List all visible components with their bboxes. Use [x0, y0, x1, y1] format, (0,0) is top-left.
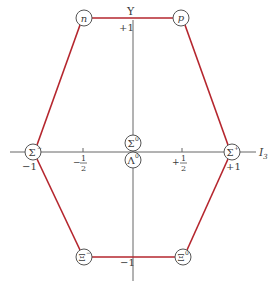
particle-xi-minus: Ξ −: [76, 249, 92, 265]
svg-text:0: 0: [185, 249, 189, 256]
i3-tick-neg-half-label: − 1 2: [73, 154, 87, 173]
particle-sigma-plus: Σ +: [224, 144, 240, 160]
svg-text:−: −: [73, 157, 81, 167]
particle-p: p: [173, 10, 189, 26]
svg-text:1: 1: [81, 154, 86, 163]
svg-text:2: 2: [181, 164, 186, 173]
svg-text:+: +: [234, 144, 239, 151]
i3-tick-minus-one: −1: [22, 161, 37, 172]
i3-tick-plus-one: +1: [226, 161, 241, 172]
svg-text:p: p: [178, 12, 185, 23]
svg-text:Σ: Σ: [28, 147, 35, 158]
svg-text:Ξ: Ξ: [78, 252, 85, 263]
svg-text:−: −: [86, 249, 91, 256]
y-axis-label: Y: [126, 5, 135, 18]
svg-text:Σ: Σ: [127, 138, 134, 149]
y-tick-minus-one: −1: [120, 257, 135, 268]
particle-lambda-zero: Λ 0: [125, 152, 141, 168]
particle-sigma-zero: Σ 0: [125, 135, 141, 151]
i3-tick-pos-half-label: + 1 2: [172, 154, 187, 173]
svg-text:0: 0: [135, 135, 139, 142]
svg-text:2: 2: [81, 164, 86, 173]
svg-text:n: n: [81, 13, 87, 24]
svg-text:0: 0: [135, 152, 139, 159]
svg-text:+: +: [172, 157, 180, 167]
i3-axis-label: I3: [258, 146, 268, 161]
svg-text:1: 1: [181, 154, 186, 163]
weight-diagram: Y I3 +1 −1 −1 +1 − 1 2 + 1 2 n p Σ − Σ +…: [0, 0, 275, 288]
particle-n: n: [76, 10, 92, 26]
particle-xi-zero: Ξ 0: [175, 249, 191, 265]
particle-sigma-minus: Σ −: [25, 144, 42, 160]
svg-text:Ξ: Ξ: [177, 252, 184, 263]
svg-text:Σ: Σ: [226, 147, 233, 158]
svg-text:−: −: [37, 144, 42, 151]
y-tick-plus-one: +1: [119, 22, 134, 33]
